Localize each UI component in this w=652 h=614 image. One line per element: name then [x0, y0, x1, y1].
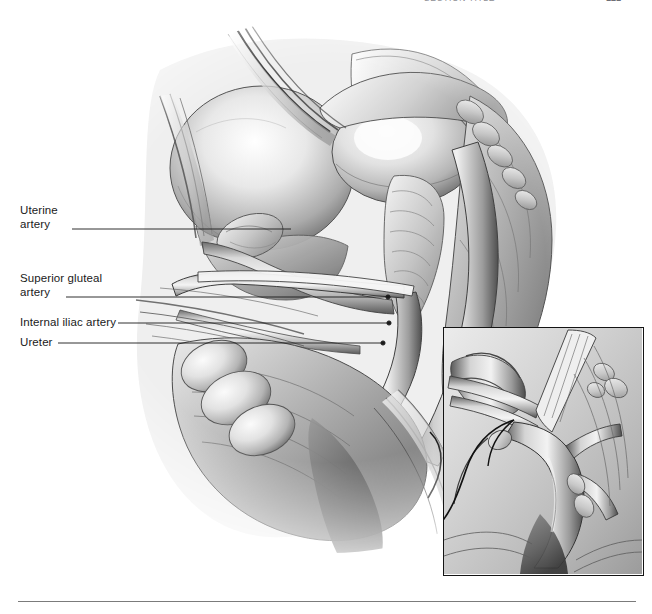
leader-dot-ureter [381, 341, 385, 345]
callout-label-ureter: Ureter [20, 336, 53, 350]
footer-rule [18, 601, 636, 602]
callout-label-superior-gluteal-artery: Superior gluteal artery [20, 272, 102, 299]
leader-dot-internal-iliac-artery [387, 321, 391, 325]
figure-page: SECTION TITLE 121 [0, 0, 652, 614]
inset-detail-panel [443, 327, 644, 576]
callout-label-internal-iliac-artery: Internal iliac artery [20, 316, 116, 330]
callout-label-uterine-artery: Uterine artery [20, 204, 58, 231]
leader-dot-superior-gluteal-artery [386, 295, 390, 299]
